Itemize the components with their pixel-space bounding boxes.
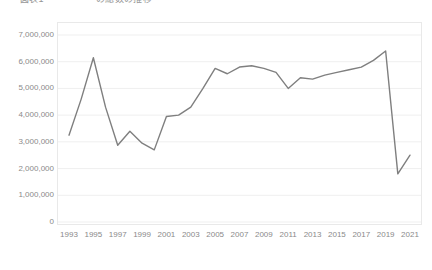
- x-axis-tick-label: 2005: [206, 231, 224, 239]
- x-axis-tick-label: 2009: [255, 231, 273, 239]
- x-axis-tick-label: 1999: [133, 231, 151, 239]
- x-axis-tick-label: 2011: [280, 231, 297, 239]
- x-axis-tick-label: 1997: [109, 231, 127, 239]
- x-axis-tick-label: 2013: [304, 231, 322, 239]
- x-axis-tick-label: 2001: [158, 231, 176, 239]
- x-axis-tick-label: 2017: [352, 231, 370, 239]
- x-axis-tick-label: 2015: [328, 231, 346, 239]
- x-axis-tick-label: 2021: [401, 231, 419, 239]
- x-axis-tick-label: 2019: [377, 231, 395, 239]
- line-chart: 図表1 の総数の推移 7,000,0006,000,0005,000,0004,…: [0, 0, 432, 270]
- x-axis-tick-label: 1995: [84, 231, 102, 239]
- x-axis-tick-label: 2003: [182, 231, 200, 239]
- x-axis: 1993199519971999200120032005200720092011…: [57, 231, 425, 245]
- data-series-line: [69, 51, 410, 174]
- x-axis-tick-label: 1993: [60, 231, 78, 239]
- x-axis-tick-label: 2007: [231, 231, 249, 239]
